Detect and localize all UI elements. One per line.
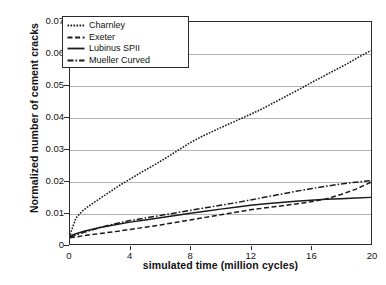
legend-item: Charnley bbox=[67, 20, 184, 32]
y-tick-label: 0 bbox=[28, 239, 64, 250]
legend-label: Lubinus SPII bbox=[89, 43, 140, 54]
y-tick-label: 0.01 bbox=[28, 207, 64, 218]
legend-item: Lubinus SPII bbox=[67, 43, 184, 55]
x-tick-mark bbox=[130, 246, 131, 250]
x-axis-label: simulated time (million cycles) bbox=[69, 259, 372, 271]
y-tick-label: 0.03 bbox=[28, 143, 64, 154]
x-tick-mark bbox=[311, 246, 312, 250]
legend-label: Charnley bbox=[89, 20, 125, 31]
legend-swatch-exeter bbox=[67, 32, 85, 43]
y-tick-label: 0.02 bbox=[28, 175, 64, 186]
series-line-exeter bbox=[70, 182, 371, 238]
legend-swatch-charnley bbox=[67, 20, 85, 31]
y-tick-label: 0.04 bbox=[28, 111, 64, 122]
series-line-lubinus-spii bbox=[70, 197, 371, 235]
chart-legend: CharnleyExeterLubinus SPIIMueller Curved bbox=[62, 16, 189, 68]
legend-label: Exeter bbox=[89, 32, 115, 43]
chart-figure: Normalized number of cement cracks 00.01… bbox=[0, 0, 386, 285]
legend-swatch-mueller-curved bbox=[67, 55, 85, 66]
legend-item: Exeter bbox=[67, 32, 184, 44]
legend-label: Mueller Curved bbox=[89, 55, 150, 66]
legend-swatch-lubinus-spii bbox=[67, 43, 85, 54]
legend-item: Mueller Curved bbox=[67, 55, 184, 67]
x-tick-mark bbox=[251, 246, 252, 250]
x-tick-mark bbox=[190, 246, 191, 250]
y-tick-label: 0.06 bbox=[28, 47, 64, 58]
y-tick-label: 0.05 bbox=[28, 79, 64, 90]
series-line-charnley bbox=[70, 51, 371, 235]
y-tick-label: 0.07 bbox=[28, 15, 64, 26]
